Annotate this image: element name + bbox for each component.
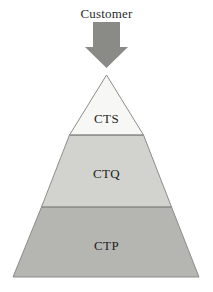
pyramid-tier-cts[interactable] [70,75,144,135]
pyramid-tier-label-ctq: CTQ [0,166,213,181]
pyramid-tier-label-cts: CTS [0,111,213,126]
pyramid-diagram: Customer CTS CTQ CTP [0,0,213,292]
down-arrow-icon [85,22,128,68]
pyramid-tier-label-ctp: CTP [0,238,213,253]
